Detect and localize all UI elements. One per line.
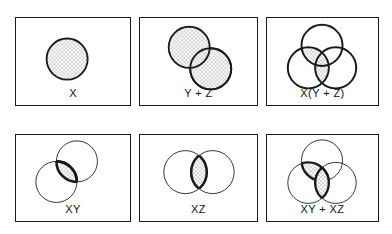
circle-x xyxy=(47,39,88,80)
panel-xy-label: XY xyxy=(16,203,130,215)
panel-xz: XZ xyxy=(139,134,258,222)
panel-x-times-y-plus-z: X(Y + Z) xyxy=(266,17,379,106)
panel-xy-plus-xz-label: XY + XZ xyxy=(267,203,378,215)
panel-xz-label: XZ xyxy=(140,203,257,215)
panel-x-label: X xyxy=(16,87,130,99)
venn-diagram-figure: X Y + Z xyxy=(0,0,392,234)
panel-xy: XY xyxy=(15,134,131,222)
panel-y-plus-z-label: Y + Z xyxy=(140,87,257,99)
panel-x-times-y-plus-z-label: X(Y + Z) xyxy=(267,87,378,99)
panel-y-plus-z: Y + Z xyxy=(139,17,258,106)
panel-x: X xyxy=(15,17,131,106)
panel-xy-plus-xz: XY + XZ xyxy=(266,134,379,222)
circle-y xyxy=(169,27,210,68)
